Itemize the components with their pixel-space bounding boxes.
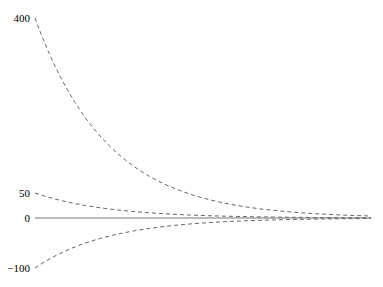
curve-neg100-line [35, 219, 371, 269]
y-tick-label: 0 [25, 212, 31, 224]
y-tick-label: 400 [14, 12, 31, 24]
curve-50-line [35, 193, 371, 218]
curve-400-line [35, 18, 371, 216]
chart: 400500−100 [0, 0, 383, 287]
plot-lines [35, 18, 371, 268]
y-tick-label: −100 [7, 262, 30, 274]
y-tick-label: 50 [19, 187, 31, 199]
y-axis-tick-labels: 400500−100 [7, 12, 30, 274]
